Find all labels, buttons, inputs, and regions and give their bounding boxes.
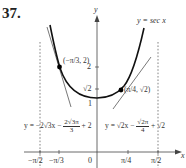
point-label-right: (π/4, √2) [124,86,150,94]
x-axis-label: x [181,152,185,160]
y-axis-label: y [94,6,98,14]
tangent-left-fraction: 2√3π 3 [63,119,79,134]
tangent-left-suffix: + 2 [82,121,92,130]
tangent-right-suffix: + √2 [151,121,165,130]
sec-graph [0,0,186,168]
y-tick-label: 1 [88,100,92,108]
point-label-left: (−π/3, 2) [63,57,89,65]
curve-label: y = sec x [137,17,166,25]
x-tick-label: π/2 [151,157,161,165]
x-tick-label: 0 [88,157,92,165]
tangent-equation-right: y = √2x − √2π 4 + √2 [105,119,165,134]
y-axis-arrow-icon [95,15,100,22]
tangent-right-denominator: 4 [140,127,146,134]
y-tick-label: √2 [83,85,91,93]
point-pi-4 [119,88,124,93]
tangent-equation-left: y = −2√3x − 2√3π 3 + 2 [24,119,91,134]
x-tick-label: −π/2 [28,157,43,165]
tangent-left-denominator: 3 [69,127,75,134]
x-tick-label: π/4 [121,157,131,165]
tangent-left-prefix: y = −2√3x − [24,121,61,130]
point-neg-pi-3 [57,65,62,70]
tangent-line-right [113,57,151,109]
x-tick-label: −π/3 [49,157,64,165]
tangent-right-prefix: y = √2x − [105,121,134,130]
tangent-right-fraction: √2π 4 [136,119,149,134]
